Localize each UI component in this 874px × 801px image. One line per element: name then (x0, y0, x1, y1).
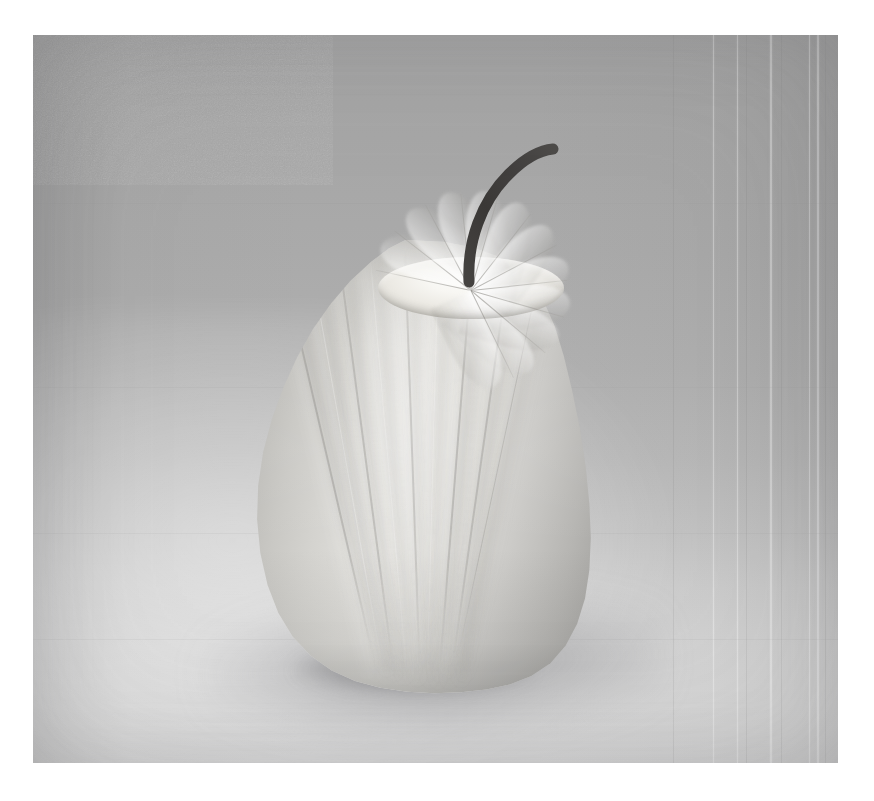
photograph (33, 35, 838, 763)
scan-streak (746, 35, 747, 763)
scan-streak (673, 35, 674, 763)
scan-streak (781, 35, 782, 763)
page-canvas (0, 0, 874, 801)
scan-streak (737, 35, 738, 763)
scan-streak (809, 35, 810, 763)
pear-stem (423, 130, 603, 305)
scan-streak (825, 35, 826, 763)
stem-stroke (469, 149, 553, 282)
scan-streak (713, 35, 714, 763)
scan-streak (817, 35, 819, 763)
scan-streak (770, 35, 772, 763)
